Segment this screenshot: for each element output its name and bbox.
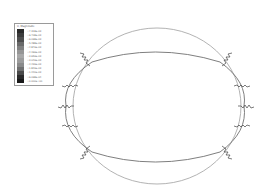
- spring-icon: [222, 146, 232, 159]
- spring-icon: [80, 146, 90, 159]
- undeformed-circle: [73, 28, 241, 184]
- left-springs: [58, 53, 90, 159]
- spring-icon: [238, 105, 254, 108]
- deformation-plot: [0, 0, 255, 196]
- deformed-shape: [66, 52, 245, 162]
- right-springs: [222, 53, 254, 159]
